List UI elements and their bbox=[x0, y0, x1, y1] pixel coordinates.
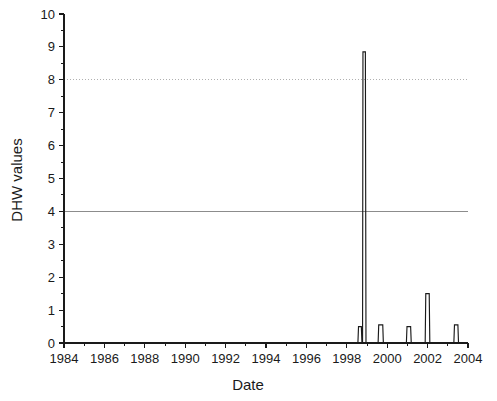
x-tick-label: 1996 bbox=[292, 351, 321, 366]
chart-figure: 0123456789101984198619881990199219941996… bbox=[0, 0, 497, 401]
y-tick-label: 5 bbox=[48, 171, 55, 186]
x-tick-label: 1984 bbox=[50, 351, 79, 366]
reference-lines-group bbox=[64, 80, 468, 212]
y-tick-label: 10 bbox=[41, 7, 55, 22]
series-line-dhw bbox=[64, 52, 468, 343]
ticks-group bbox=[59, 14, 468, 348]
x-tick-label: 2004 bbox=[454, 351, 483, 366]
x-tick-label: 2002 bbox=[413, 351, 442, 366]
series-group bbox=[64, 52, 468, 343]
x-axis-title: Date bbox=[232, 376, 264, 393]
x-tick-label: 1992 bbox=[211, 351, 240, 366]
y-tick-label: 8 bbox=[48, 72, 55, 87]
tick-labels-group: 0123456789101984198619881990199219941996… bbox=[41, 7, 483, 367]
y-axis-title: DHW values bbox=[8, 138, 25, 221]
dhw-time-series-chart: 0123456789101984198619881990199219941996… bbox=[0, 0, 497, 401]
y-tick-label: 1 bbox=[48, 303, 55, 318]
x-tick-label: 1986 bbox=[90, 351, 119, 366]
x-tick-label: 1994 bbox=[252, 351, 281, 366]
y-tick-label: 3 bbox=[48, 237, 55, 252]
x-tick-label: 1990 bbox=[171, 351, 200, 366]
y-tick-label: 0 bbox=[48, 336, 55, 351]
x-tick-label: 1998 bbox=[332, 351, 361, 366]
axes-group bbox=[64, 14, 468, 343]
x-tick-label: 1988 bbox=[130, 351, 159, 366]
y-tick-label: 6 bbox=[48, 138, 55, 153]
x-tick-label: 2000 bbox=[373, 351, 402, 366]
y-tick-label: 7 bbox=[48, 105, 55, 120]
y-tick-label: 4 bbox=[48, 204, 55, 219]
y-tick-label: 2 bbox=[48, 270, 55, 285]
y-tick-label: 9 bbox=[48, 39, 55, 54]
